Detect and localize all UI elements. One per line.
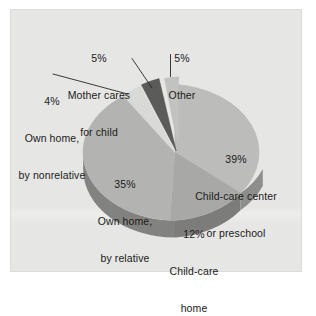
slice-name-own-home-relative-line2: by relative — [84, 252, 166, 264]
slice-name-own-home-nonrelative-line2: by nonrelative — [8, 169, 96, 181]
slice-name-own-home-nonrelative-line1: Own home, — [8, 132, 96, 144]
slice-percent-own-home-relative: 35% — [84, 178, 166, 190]
slice-name-child-care-home-line1: Child-care — [158, 265, 230, 277]
slice-label-other: 5% Other — [158, 27, 206, 126]
slice-label-own-home-relative: 35% Own home, by relative — [84, 153, 166, 289]
slice-percent-other: 5% — [158, 52, 206, 64]
slice-percent-own-home-nonrelative: 4% — [8, 95, 96, 107]
slice-name-child-care-home-line2: home — [158, 302, 230, 314]
slice-percent-child-care-home: 12% — [158, 228, 230, 240]
slice-percent-child-care-center: 39% — [184, 153, 288, 165]
slice-percent-mother-cares: 5% — [56, 52, 142, 64]
slice-label-own-home-nonrelative: 4% Own home, by nonrelative — [8, 70, 96, 206]
slice-label-child-care-home: 12% Child-care home — [158, 203, 230, 316]
slice-name-other-line1: Other — [158, 89, 206, 101]
slice-name-own-home-relative-line1: Own home, — [84, 215, 166, 227]
slice-name-child-care-center-line1: Child-care center — [184, 190, 288, 202]
